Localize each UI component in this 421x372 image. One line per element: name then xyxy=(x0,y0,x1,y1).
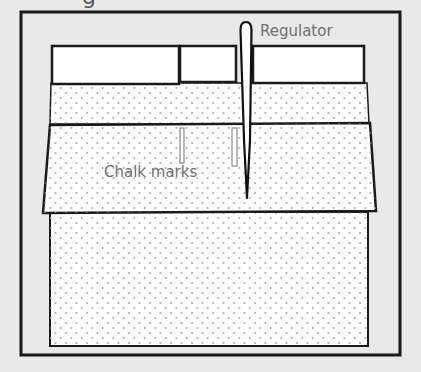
top-block-right xyxy=(253,46,364,83)
tailoring-diagram: g Chalk marks Regulator xyxy=(0,0,421,372)
top-block-middle xyxy=(180,46,236,82)
lower-fabric-panel xyxy=(50,212,368,346)
chalk-marks-label: Chalk marks xyxy=(104,163,197,181)
chalk-mark-2 xyxy=(232,128,237,166)
folded-fabric-trapezoid xyxy=(43,123,376,213)
chalk-mark-1 xyxy=(180,128,184,163)
regulator-label: Regulator xyxy=(260,22,333,40)
top-block-left xyxy=(52,46,179,84)
cut-heading-glyph: g xyxy=(82,0,96,9)
upper-fabric-band xyxy=(50,83,369,124)
